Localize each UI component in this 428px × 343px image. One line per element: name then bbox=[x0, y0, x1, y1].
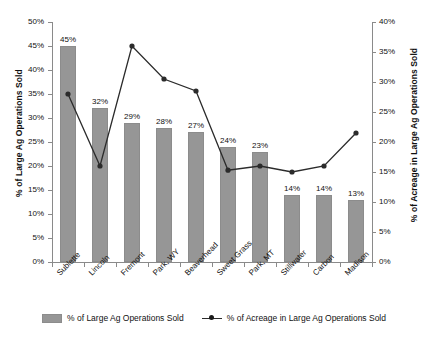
bar-value-label: 28% bbox=[148, 117, 180, 126]
y-axis-right-tick-label: 30% bbox=[379, 77, 405, 86]
y-axis-right-tick-label: 10% bbox=[379, 197, 405, 206]
y-axis-left-tick-label: 45% bbox=[18, 41, 44, 50]
line-data-point[interactable] bbox=[257, 163, 262, 168]
y-axis-right-tick-mark bbox=[372, 52, 376, 53]
x-axis-tick-mark bbox=[212, 263, 213, 267]
bar-value-label: 13% bbox=[340, 189, 372, 198]
y-axis-left-tick-label: 0% bbox=[18, 257, 44, 266]
legend-item-line[interactable]: % of Acreage in Large Ag Operations Sold bbox=[202, 313, 386, 323]
line-data-point[interactable] bbox=[193, 88, 198, 93]
x-axis-tick-mark bbox=[340, 263, 341, 267]
chart-legend: % of Large Ag Operations Sold % of Acrea… bbox=[0, 313, 428, 323]
x-axis-tick-mark bbox=[116, 263, 117, 267]
line-data-point[interactable] bbox=[129, 43, 134, 48]
y-axis-left-tick-label: 5% bbox=[18, 233, 44, 242]
y-axis-right-tick-mark bbox=[372, 172, 376, 173]
x-axis-tick-mark bbox=[244, 263, 245, 267]
bar-swatch-icon bbox=[42, 314, 62, 323]
line-marker-icon bbox=[202, 314, 222, 322]
y-axis-right-tick-mark bbox=[372, 202, 376, 203]
y-axis-right-tick-mark bbox=[372, 82, 376, 83]
bar-value-label: 23% bbox=[244, 141, 276, 150]
bar-value-label: 24% bbox=[212, 136, 244, 145]
bar-value-label: 29% bbox=[116, 112, 148, 121]
line-data-point[interactable] bbox=[97, 163, 102, 168]
y-axis-right-tick-label: 35% bbox=[379, 47, 405, 56]
x-axis-tick-mark bbox=[84, 263, 85, 267]
y-axis-left-tick-label: 15% bbox=[18, 185, 44, 194]
x-axis-tick-mark bbox=[276, 263, 277, 267]
y-axis-right-tick-label: 25% bbox=[379, 107, 405, 116]
y-axis-right-tick-label: 15% bbox=[379, 167, 405, 176]
y-axis-right-tick-mark bbox=[372, 142, 376, 143]
bar-value-label: 32% bbox=[84, 97, 116, 106]
y-axis-right-tick-mark bbox=[372, 112, 376, 113]
y-axis-left-tick-label: 10% bbox=[18, 209, 44, 218]
bar-value-label: 14% bbox=[276, 184, 308, 193]
x-axis-tick-mark bbox=[180, 263, 181, 267]
y-axis-left-tick-label: 30% bbox=[18, 113, 44, 122]
y-axis-right-tick-label: 20% bbox=[379, 137, 405, 146]
x-axis-tick-mark bbox=[372, 263, 373, 267]
x-axis-tick-mark bbox=[148, 263, 149, 267]
y-axis-right-tick-label: 40% bbox=[379, 17, 405, 26]
legend-item-bar[interactable]: % of Large Ag Operations Sold bbox=[42, 313, 184, 323]
x-axis-tick-mark bbox=[308, 263, 309, 267]
legend-label-line: % of Acreage in Large Ag Operations Sold bbox=[227, 313, 386, 323]
line-data-point[interactable] bbox=[353, 130, 358, 135]
y-axis-right-tick-mark bbox=[372, 22, 376, 23]
y-axis-right-title: % of Acreage in Large Ag Operations Sold bbox=[409, 42, 419, 228]
y-axis-left-tick-label: 40% bbox=[18, 65, 44, 74]
line-data-point[interactable] bbox=[225, 168, 230, 173]
bar-value-label: 14% bbox=[308, 184, 340, 193]
legend-label-bar: % of Large Ag Operations Sold bbox=[67, 313, 184, 323]
line-data-point[interactable] bbox=[289, 169, 294, 174]
y-axis-left-tick-label: 35% bbox=[18, 89, 44, 98]
line-data-point[interactable] bbox=[161, 76, 166, 81]
bar-value-label: 27% bbox=[180, 121, 212, 130]
chart-container: % of Large Ag Operations Sold % of Acrea… bbox=[0, 0, 428, 343]
line-data-point[interactable] bbox=[321, 163, 326, 168]
y-axis-left-tick-label: 25% bbox=[18, 137, 44, 146]
bar-value-label: 45% bbox=[52, 35, 84, 44]
y-axis-right-tick-label: 5% bbox=[379, 227, 405, 236]
line-data-point[interactable] bbox=[65, 91, 70, 96]
y-axis-left-tick-label: 50% bbox=[18, 17, 44, 26]
y-axis-right-tick-label: 0% bbox=[379, 257, 405, 266]
line-path bbox=[68, 46, 356, 172]
x-axis-tick-mark bbox=[52, 263, 53, 267]
y-axis-left-tick-label: 20% bbox=[18, 161, 44, 170]
y-axis-right-tick-mark bbox=[372, 232, 376, 233]
